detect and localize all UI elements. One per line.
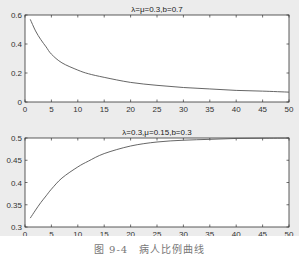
x-tick-label: 10 <box>73 230 82 236</box>
y-tick-label: 0.2 <box>11 69 23 78</box>
x-tick-label: 25 <box>153 230 162 236</box>
x-tick-label: 25 <box>153 105 162 114</box>
x-tick-label: 15 <box>100 230 109 236</box>
plot-area <box>25 138 289 227</box>
y-tick-label: 0.5 <box>11 134 23 143</box>
figure-caption: 图 9-4 病人比例曲线 <box>0 241 299 256</box>
subplot-1: 0510152025303540455000.20.40.6λ=μ=0.3,b=… <box>11 5 294 114</box>
x-tick-label: 0 <box>23 230 28 236</box>
subplot-2: 051015202530354045500.30.350.40.450.5λ=0… <box>6 128 294 236</box>
x-tick-label: 5 <box>49 230 54 236</box>
x-tick-label: 50 <box>285 105 294 114</box>
x-tick-label: 35 <box>205 230 214 236</box>
x-tick-label: 10 <box>73 105 82 114</box>
x-tick-label: 15 <box>100 105 109 114</box>
y-tick-label: 0.3 <box>11 223 23 232</box>
y-tick-label: 0 <box>18 98 23 107</box>
x-tick-label: 20 <box>126 105 135 114</box>
y-tick-label: 0.45 <box>6 156 22 165</box>
x-tick-label: 35 <box>205 105 214 114</box>
subplot-title: λ=μ=0.3,b=0.7 <box>131 5 183 14</box>
plot-area <box>25 15 289 102</box>
x-tick-label: 45 <box>258 105 267 114</box>
x-tick-label: 40 <box>232 105 241 114</box>
x-tick-label: 20 <box>126 230 135 236</box>
x-tick-label: 5 <box>49 105 54 114</box>
x-tick-label: 0 <box>23 105 28 114</box>
x-tick-label: 30 <box>179 230 188 236</box>
x-tick-label: 45 <box>258 230 267 236</box>
x-tick-label: 30 <box>179 105 188 114</box>
x-tick-label: 40 <box>232 230 241 236</box>
y-tick-label: 0.6 <box>11 11 23 20</box>
y-tick-label: 0.35 <box>6 201 22 210</box>
y-tick-label: 0.4 <box>11 40 23 49</box>
figure-plots: 0510152025303540455000.20.40.6λ=μ=0.3,b=… <box>0 0 299 236</box>
subplot-title: λ=0.3,μ=0.15,b=0.3 <box>122 128 192 137</box>
x-tick-label: 50 <box>285 230 294 236</box>
y-tick-label: 0.4 <box>11 179 23 188</box>
